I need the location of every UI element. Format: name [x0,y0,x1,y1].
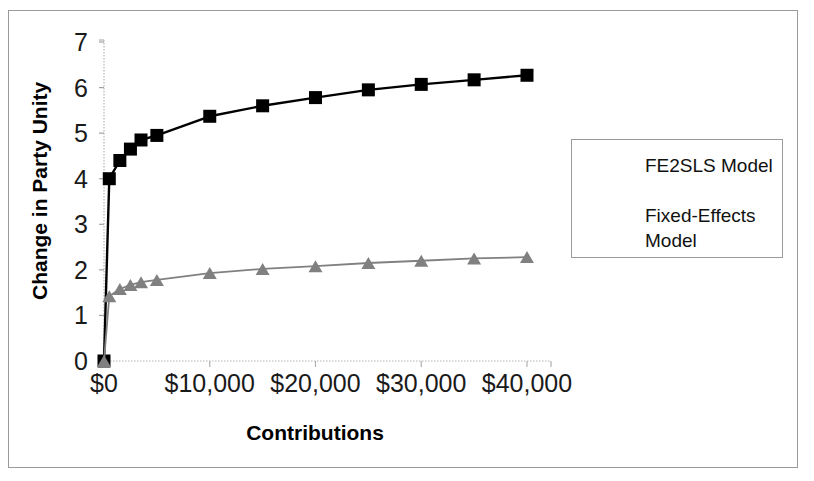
series-1 [98,69,534,368]
data-point [150,129,163,142]
y-tick-label: 1 [74,301,88,329]
series-2 [97,251,534,367]
x-axis-tick-labels: $0$10,000$20,000$30,000$40,000 [90,369,572,397]
x-tick-label: $0 [90,369,118,397]
data-point [103,172,116,185]
data-point [123,279,137,291]
data-point [521,69,534,82]
legend-container [571,139,783,258]
y-tick-label: 4 [74,165,88,193]
x-tick-label: $40,000 [482,369,572,397]
data-point [468,73,481,86]
y-tick-label: 6 [74,74,88,102]
series-line [104,75,527,361]
y-axis-title: Change in Party Unity [28,81,51,300]
x-tick-label: $30,000 [376,369,466,397]
y-axis-tick-labels: 01234567 [74,28,88,375]
data-point [309,91,322,104]
chart-figure: 01234567 $0$10,000$20,000$30,000$40,000 … [0,0,814,481]
data-point [135,133,148,146]
data-point [362,83,375,96]
x-tick-label: $10,000 [165,369,255,397]
data-point [113,154,126,167]
y-tick-label: 5 [74,119,88,147]
series-line [104,257,527,361]
y-tick-label: 3 [74,210,88,238]
axis-lines [99,40,551,367]
y-tick-label: 0 [74,347,88,375]
y-tick-label: 7 [74,28,88,56]
data-point [256,99,269,112]
x-axis-title: Contributions [246,421,384,444]
data-point [203,110,216,123]
data-point [415,78,428,91]
data-series-layer [97,69,534,368]
y-tick-label: 2 [74,256,88,284]
x-tick-label: $20,000 [270,369,360,397]
